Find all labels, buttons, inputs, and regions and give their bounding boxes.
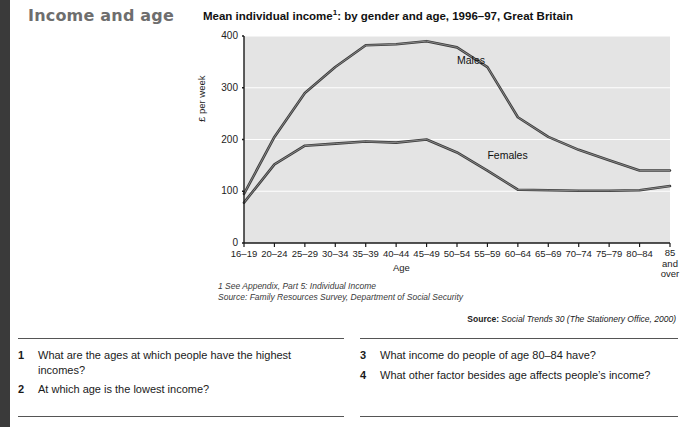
- question-text: What other factor besides age affects pe…: [380, 368, 672, 383]
- x-axis-tick-label: 25–29: [288, 248, 322, 259]
- divider-bottom-right: [360, 416, 678, 417]
- divider-bottom-left: [18, 416, 344, 417]
- question-item: 1 What are the ages at which people have…: [18, 348, 338, 378]
- question-text: What are the ages at which people have t…: [38, 348, 338, 378]
- page-root: Income and age Mean individual income1: …: [0, 0, 696, 427]
- x-axis-tick-label: 80–84: [623, 248, 657, 259]
- x-axis-tick-label: 60–64: [501, 248, 535, 259]
- chart-title-main: Mean individual income: [203, 10, 333, 22]
- x-axis-tick-label: 20–24: [257, 248, 291, 259]
- chart: £ per week 0100200300400 MalesFemales: [196, 26, 676, 256]
- source-label: Source:: [467, 314, 499, 324]
- x-axis-tick-label: 75–79: [592, 248, 626, 259]
- x-axis-tick-label: 50–54: [440, 248, 474, 259]
- x-axis-tick-label: 35–39: [349, 248, 383, 259]
- page-title: Income and age: [28, 6, 174, 25]
- question-number: 1: [18, 348, 32, 363]
- x-axis-tick-label: 45–49: [410, 248, 444, 259]
- source-text: Social Trends 30 (The Stationery Office,…: [499, 314, 676, 324]
- chart-plot-area: MalesFemales: [242, 26, 672, 274]
- question-number: 4: [360, 368, 374, 383]
- x-axis-tick-label: 16–19: [227, 248, 261, 259]
- question-text: At which age is the lowest income?: [38, 382, 338, 397]
- y-axis-ticks: 0100200300400: [204, 26, 238, 246]
- question-item: 3 What income do people of age 80–84 hav…: [360, 348, 678, 363]
- footnote-1: 1 See Appendix, Part 5: Individual Incom…: [218, 281, 463, 292]
- y-axis-tick-label: 100: [204, 186, 238, 196]
- x-axis-tick-label: 40–44: [379, 248, 413, 259]
- question-text: What income do people of age 80–84 have?: [380, 348, 678, 363]
- divider-top-right: [360, 338, 678, 339]
- chart-title: Mean individual income1: by gender and a…: [203, 6, 683, 23]
- x-axis-tick-label: 85andover: [655, 248, 685, 280]
- x-axis-ticks: 16–1920–2425–2930–3435–3940–4445–4950–54…: [196, 248, 682, 266]
- y-axis-tick-label: 400: [204, 31, 238, 41]
- footnote-2: Source: Family Resources Survey, Departm…: [218, 292, 463, 303]
- x-axis-tick-label: 65–69: [531, 248, 565, 259]
- left-edge-bar: [0, 0, 10, 427]
- question-number: 2: [18, 382, 32, 397]
- question-number: 3: [360, 348, 374, 363]
- svg-text:Females: Females: [487, 149, 527, 161]
- x-axis-tick-label: 70–74: [562, 248, 596, 259]
- divider-top-left: [18, 338, 344, 339]
- question-item: 4 What other factor besides age affects …: [360, 368, 672, 383]
- chart-footnotes: 1 See Appendix, Part 5: Individual Incom…: [218, 281, 463, 303]
- y-axis-tick-label: 200: [204, 135, 238, 145]
- x-axis-tick-label: 30–34: [318, 248, 352, 259]
- source-credit: Source: Social Trends 30 (The Stationery…: [467, 314, 676, 324]
- svg-text:Males: Males: [457, 54, 485, 66]
- x-axis-label: Age: [393, 262, 410, 273]
- y-axis-tick-label: 300: [204, 83, 238, 93]
- y-axis-tick-label: 0: [204, 238, 238, 248]
- chart-title-rest: : by gender and age, 1996–97, Great Brit…: [337, 10, 573, 22]
- question-item: 2 At which age is the lowest income?: [18, 382, 338, 397]
- x-axis-tick-label: 55–59: [470, 248, 504, 259]
